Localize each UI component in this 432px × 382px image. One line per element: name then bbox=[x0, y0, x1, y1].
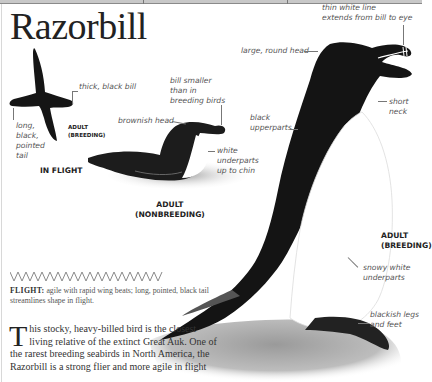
annotation-large-round-head: large, round head bbox=[241, 46, 309, 56]
leader-line bbox=[403, 25, 404, 45]
leader-line bbox=[208, 151, 215, 152]
annotation-snowy-white-underparts: snowy white underparts bbox=[363, 263, 410, 283]
annotation-white-underparts: white underparts up to chin bbox=[217, 146, 259, 176]
flight-label: FLIGHT: bbox=[10, 286, 44, 295]
annotation-blackish-legs: blackish legs and feet bbox=[370, 310, 419, 330]
annotation-thin-white-line: thin white line extends from bill to eye bbox=[322, 3, 413, 23]
annotation-black-upperparts: black upperparts bbox=[250, 113, 292, 133]
annotation-tail: long, black, pointed tail bbox=[16, 121, 45, 161]
zigzag-flight-pattern-icon bbox=[10, 271, 170, 283]
caption-adult-breeding: ADULT (BREEDING) bbox=[381, 231, 432, 251]
annotation-bill-smaller: bill smaller than in breeding birds bbox=[170, 76, 225, 106]
annotation-short-neck: short neck bbox=[389, 97, 409, 117]
description-text: his stocky, heavy-billed bird is the clo… bbox=[10, 323, 217, 372]
annotation-brownish-head: brownish head bbox=[118, 116, 174, 126]
leader-line bbox=[290, 129, 298, 130]
dropcap: T bbox=[9, 324, 27, 348]
leader-line bbox=[13, 108, 14, 120]
leader-line bbox=[378, 101, 387, 102]
leader-line bbox=[358, 323, 369, 324]
annotation-thick-black-bill: thick, black bill bbox=[79, 82, 136, 92]
leader-line bbox=[72, 91, 78, 92]
caption-adult-nonbreeding: ADULT (NONBREEDING) bbox=[135, 200, 205, 220]
species-description: This stocky, heavy-billed bird is the cl… bbox=[10, 323, 220, 373]
label-adult-breeding-flight: ADULT (BREEDING) bbox=[68, 124, 105, 139]
leader-line bbox=[304, 51, 318, 52]
caption-in-flight: IN FLIGHT bbox=[40, 166, 82, 176]
flight-description: FLIGHT: agile with rapid wing beats; lon… bbox=[10, 286, 220, 306]
leader-line bbox=[221, 105, 222, 125]
leader-line bbox=[72, 92, 73, 105]
